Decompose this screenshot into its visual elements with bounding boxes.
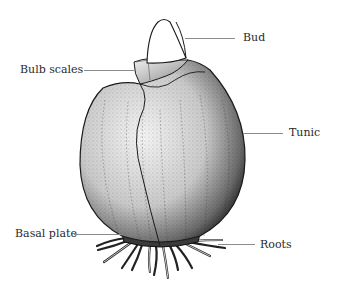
bulb-scales-leader-line <box>84 70 134 71</box>
label-roots: Roots <box>260 239 292 251</box>
tunic-leader-line <box>243 133 283 134</box>
bulb-diagram: Bud Bulb scales Tunic Basal plate Roots <box>0 0 337 301</box>
label-tunic: Tunic <box>289 127 320 139</box>
bulb-illustration <box>0 0 337 301</box>
bud-drawing <box>147 20 186 64</box>
bud-leader-line <box>185 38 235 39</box>
label-bud: Bud <box>243 32 265 44</box>
basal-plate-leader-line <box>74 234 122 235</box>
label-basal-plate: Basal plate <box>15 228 77 240</box>
roots-leader-line <box>218 244 255 245</box>
label-bulb-scales: Bulb scales <box>20 64 83 76</box>
